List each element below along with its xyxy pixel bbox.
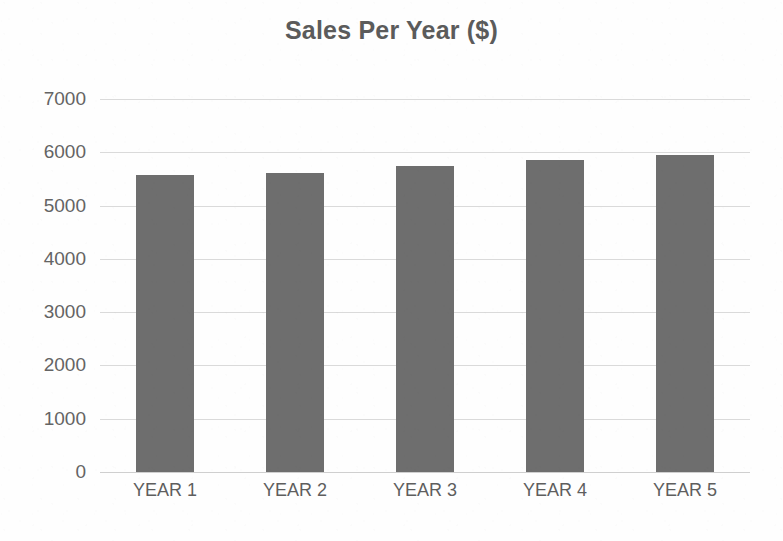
bars-layer [100,99,750,472]
y-axis-tick-label: 0 [75,461,86,483]
bar-year-5[interactable] [656,155,714,472]
x-axis-tick-label: YEAR 2 [230,480,360,501]
x-axis-labels: YEAR 1YEAR 2YEAR 3YEAR 4YEAR 5 [100,480,750,501]
y-axis-tick-label: 7000 [44,88,86,110]
plot-area: 70006000500040003000200010000 [100,99,750,472]
bar-slot [620,99,750,472]
y-axis-tick-label: 1000 [44,408,86,430]
bar-year-4[interactable] [526,160,584,472]
bar-year-3[interactable] [396,166,454,472]
bar-slot [360,99,490,472]
bar-year-2[interactable] [266,173,324,472]
bar-slot [100,99,230,472]
bar-chart: Sales Per Year ($) 700060005000400030002… [0,0,783,541]
x-axis-tick-label: YEAR 5 [620,480,750,501]
bar-year-1[interactable] [136,175,194,472]
x-axis-tick-label: YEAR 4 [490,480,620,501]
y-axis-tick-label: 6000 [44,141,86,163]
x-axis-tick-label: YEAR 1 [100,480,230,501]
y-axis-tick-label: 2000 [44,354,86,376]
chart-title: Sales Per Year ($) [0,16,783,45]
bar-slot [230,99,360,472]
gridline [100,472,750,473]
y-axis-tick-label: 5000 [44,195,86,217]
bar-slot [490,99,620,472]
y-axis-tick-label: 3000 [44,301,86,323]
y-axis-tick-label: 4000 [44,248,86,270]
x-axis-tick-label: YEAR 3 [360,480,490,501]
